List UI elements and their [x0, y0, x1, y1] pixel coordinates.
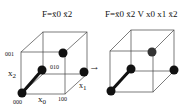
label-100: 100 — [58, 96, 67, 102]
axis-x0-label: x0 — [38, 94, 47, 106]
axis-x2-label: x2 — [8, 68, 17, 80]
right-node-010 — [127, 65, 136, 74]
axis-x1-label: x1 — [79, 81, 87, 92]
left-node-010 — [38, 66, 47, 75]
right-node-right — [170, 66, 179, 75]
left-formula: F=x̄0 x̄2 — [42, 9, 72, 19]
label-000: 000 — [13, 99, 22, 105]
label-010: 010 — [50, 64, 59, 70]
right-node-000 — [107, 87, 116, 96]
left-node-right — [80, 68, 89, 77]
left-node-000 — [18, 89, 27, 98]
label-001: 001 — [5, 51, 14, 57]
cube-diagram: 001 010 000 100 x2 x0 x1 F=x̄0 x̄2 → F=x… — [0, 0, 195, 112]
transform-arrow: → — [89, 60, 100, 72]
left-thick-edge — [22, 70, 42, 93]
right-formula: F=x̄0 x̄2 V x0 x1 x̄2 — [105, 9, 178, 19]
left-node-back-top — [59, 49, 68, 58]
right-node-back-top — [148, 48, 157, 57]
